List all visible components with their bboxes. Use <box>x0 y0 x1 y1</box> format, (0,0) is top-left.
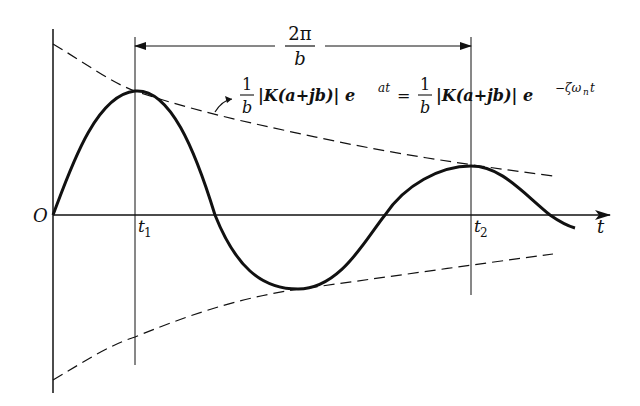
svg-text:b: b <box>420 98 430 117</box>
lower-envelope <box>53 254 553 380</box>
svg-text:|K(a+jb)| e: |K(a+jb)| e <box>436 86 533 105</box>
svg-text:2π: 2π <box>288 23 311 44</box>
svg-text:b: b <box>294 48 306 69</box>
svg-text:1: 1 <box>420 75 430 94</box>
x-axis-label: t <box>597 216 605 237</box>
envelope-annotation: 1 b |K(a+jb)| e at = 1 b |K(a+jb)| e −ζω… <box>240 75 595 117</box>
svg-text:1: 1 <box>242 75 252 94</box>
svg-text:2: 2 <box>480 226 488 240</box>
origin-label: O <box>33 205 48 226</box>
svg-text:=: = <box>397 86 410 105</box>
svg-text:t: t <box>590 81 595 95</box>
t1-label: t 1 <box>138 216 152 240</box>
svg-text:n: n <box>583 87 589 97</box>
period-label: 2π b <box>285 23 315 69</box>
response-curve <box>53 91 575 289</box>
svg-text:|K(a+jb)| e: |K(a+jb)| e <box>258 86 355 105</box>
svg-text:b: b <box>242 98 252 117</box>
damped-response-diagram: 2π b 1 b |K(a+jb)| e at = 1 b |K(a+jb)| … <box>0 0 640 406</box>
svg-text:at: at <box>378 81 390 95</box>
svg-text:−ζω: −ζω <box>555 81 582 95</box>
svg-text:1: 1 <box>144 226 152 240</box>
t2-label: t 2 <box>474 216 488 240</box>
